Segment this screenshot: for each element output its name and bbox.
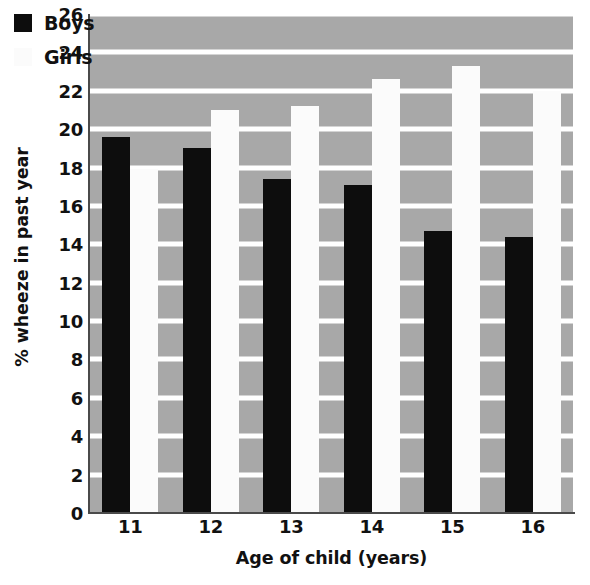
- x-axis-line: [88, 512, 575, 514]
- bar-chart: % wheeze in past year 024681012141618202…: [0, 0, 590, 585]
- y-axis-tick-label: 14: [59, 234, 83, 255]
- bar-boys-age-12: [183, 148, 211, 513]
- legend-swatch-icon: [14, 14, 32, 32]
- y-axis-tick-label: 0: [71, 503, 83, 524]
- x-axis-tick-labels: 111213141516: [90, 516, 573, 546]
- bar-girls-age-15: [452, 66, 480, 513]
- legend-item-label: Girls: [44, 46, 92, 68]
- y-axis-tick-labels: 02468101214161820222426: [44, 0, 88, 530]
- plot-area: [90, 14, 573, 513]
- x-axis-tick-label: 13: [279, 516, 303, 537]
- legend-item-label: Boys: [44, 12, 94, 34]
- x-axis-tick-label: 16: [521, 516, 545, 537]
- x-axis-tick-label: 14: [360, 516, 384, 537]
- x-axis-tick-label: 11: [118, 516, 142, 537]
- bar-girls-age-11: [130, 169, 158, 513]
- bar-boys-age-15: [424, 231, 452, 513]
- x-axis-title: Age of child (years): [90, 548, 573, 568]
- y-axis-tick-label: 8: [71, 349, 83, 370]
- bar-girls-age-13: [291, 106, 319, 513]
- legend-item-boys: Boys: [14, 6, 94, 40]
- x-axis-tick-label: 15: [440, 516, 464, 537]
- bar-girls-age-16: [533, 91, 561, 513]
- y-axis-tick-label: 20: [59, 119, 83, 140]
- y-axis-tick-label: 6: [71, 387, 83, 408]
- x-axis-tick-label: 12: [199, 516, 223, 537]
- bar-girls-age-12: [211, 110, 239, 513]
- y-axis-tick-label: 16: [59, 195, 83, 216]
- bar-girls-age-14: [372, 79, 400, 513]
- y-axis-tick-label: 4: [71, 426, 83, 447]
- legend-swatch-icon: [14, 48, 32, 66]
- y-axis-tick-label: 10: [59, 311, 83, 332]
- bar-boys-age-13: [263, 179, 291, 513]
- bars-layer: [90, 14, 573, 513]
- y-axis-tick-label: 22: [59, 80, 83, 101]
- y-axis-title: % wheeze in past year: [0, 0, 44, 513]
- bar-boys-age-14: [344, 185, 372, 513]
- y-axis-tick-label: 12: [59, 272, 83, 293]
- legend-item-girls: Girls: [14, 40, 94, 74]
- bar-boys-age-11: [102, 137, 130, 513]
- chart-legend: BoysGirls: [14, 6, 94, 74]
- y-axis-tick-label: 18: [59, 157, 83, 178]
- y-axis-tick-label: 2: [71, 464, 83, 485]
- y-axis-title-text: % wheeze in past year: [12, 147, 32, 367]
- bar-boys-age-16: [505, 237, 533, 513]
